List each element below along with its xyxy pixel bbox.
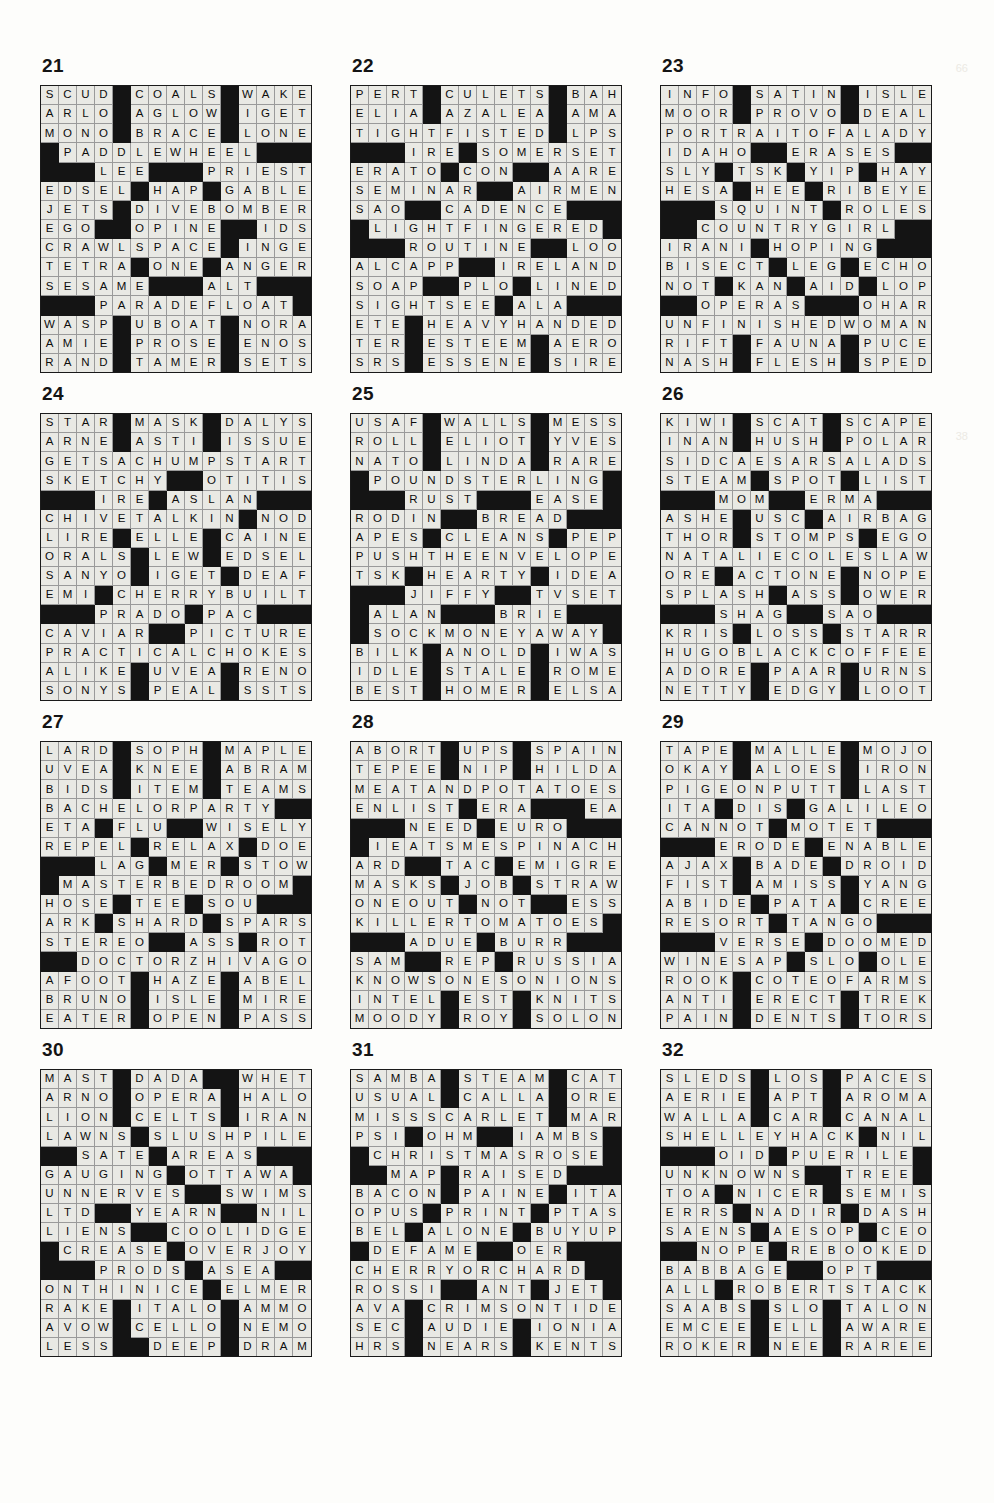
grid-letter-cell: L [387,644,405,663]
grid-letter-cell: O [679,124,697,143]
grid-letter-cell: A [787,663,805,682]
grid-block-cell [877,239,895,258]
grid-letter-cell: T [59,819,77,838]
grid-block-cell [477,933,495,952]
grid-letter-cell: O [149,258,167,277]
grid-letter-cell: O [293,1089,311,1108]
grid-letter-cell: S [441,354,459,372]
grid-letter-cell: T [859,819,877,838]
grid-letter-cell: N [495,163,513,182]
grid-letter-cell: G [149,1166,167,1185]
grid-letter-cell: E [603,1089,621,1108]
grid-letter-cell: E [351,105,369,124]
crossword-grid: INFOSATINISLEMOORPROVODEALPORTRAITOFALAD… [660,85,932,373]
grid-letter-cell: S [441,296,459,315]
grid-letter-cell: T [59,414,77,433]
grid-letter-cell: L [697,1280,715,1299]
grid-letter-cell: O [221,201,239,220]
grid-block-cell [77,605,95,624]
grid-block-cell [805,182,823,201]
grid-letter-cell: E [895,201,913,220]
grid-letter-cell: O [841,644,859,663]
grid-block-cell [841,1204,859,1223]
grid-letter-cell: U [351,414,369,433]
grid-letter-cell: R [697,124,715,143]
grid-letter-cell: N [95,991,113,1010]
grid-letter-cell: A [805,914,823,933]
grid-letter-cell: E [913,567,931,586]
grid-letter-cell: N [567,277,585,296]
grid-letter-cell: M [275,1319,293,1338]
grid-letter-cell: O [715,1147,733,1166]
grid-letter-cell: M [441,624,459,643]
grid-letter-cell: U [387,1204,405,1223]
grid-letter-cell: A [697,433,715,452]
grid-letter-cell: O [549,1319,567,1338]
grid-letter-cell: W [95,239,113,258]
grid-letter-cell: T [567,1204,585,1223]
grid-letter-cell: T [603,1070,621,1089]
grid-letter-cell: R [661,1338,679,1356]
grid-letter-cell: L [369,105,387,124]
grid-letter-cell: S [751,414,769,433]
grid-letter-cell: L [877,433,895,452]
grid-letter-cell: I [549,277,567,296]
grid-letter-cell: K [715,972,733,991]
grid-letter-cell: L [185,86,203,105]
grid-letter-cell: E [257,567,275,586]
grid-letter-cell: N [423,182,441,201]
grid-block-cell [369,819,387,838]
grid-letter-cell: M [59,335,77,354]
grid-letter-cell: T [459,914,477,933]
grid-letter-cell: S [275,1010,293,1028]
grid-letter-cell: T [823,819,841,838]
grid-block-cell [877,819,895,838]
grid-letter-cell: A [751,605,769,624]
grid-letter-cell: I [221,433,239,452]
grid-block-cell [59,857,77,876]
grid-letter-cell: I [221,952,239,971]
grid-letter-cell: L [113,838,131,857]
grid-letter-cell: A [459,316,477,335]
grid-letter-cell: M [513,335,531,354]
grid-letter-cell: M [275,1185,293,1204]
grid-letter-cell: E [913,86,931,105]
grid-letter-cell: D [149,605,167,624]
grid-letter-cell: N [459,761,477,780]
grid-block-cell [167,624,185,643]
grid-letter-cell: N [423,510,441,529]
grid-letter-cell: R [841,1147,859,1166]
grid-letter-cell: P [149,682,167,700]
grid-letter-cell: L [787,1300,805,1319]
grid-block-cell [751,663,769,682]
grid-letter-cell: B [495,876,513,895]
grid-letter-cell: S [567,1147,585,1166]
grid-letter-cell: S [823,761,841,780]
grid-letter-cell: Y [275,414,293,433]
grid-letter-cell: O [369,1280,387,1299]
grid-block-cell [697,201,715,220]
grid-letter-cell: A [185,933,203,952]
grid-letter-cell: S [77,316,95,335]
puzzle-number-label: 29 [662,711,932,733]
grid-letter-cell: E [149,586,167,605]
grid-letter-cell: U [877,335,895,354]
grid-block-cell [459,799,477,818]
grid-letter-cell: S [351,1319,369,1338]
grid-letter-cell: S [441,663,459,682]
grid-letter-cell: L [733,548,751,567]
grid-letter-cell: K [877,1242,895,1261]
grid-letter-cell: V [805,105,823,124]
grid-letter-cell: P [805,239,823,258]
grid-letter-cell: L [567,1010,585,1028]
grid-letter-cell: S [805,624,823,643]
grid-block-cell [423,663,441,682]
grid-letter-cell: O [477,1010,495,1028]
grid-letter-cell: T [405,86,423,105]
grid-letter-cell: A [423,780,441,799]
grid-letter-cell: L [41,1223,59,1242]
grid-letter-cell: L [751,624,769,643]
grid-letter-cell: A [369,452,387,471]
grid-block-cell [221,316,239,335]
grid-block-cell [913,1166,931,1185]
